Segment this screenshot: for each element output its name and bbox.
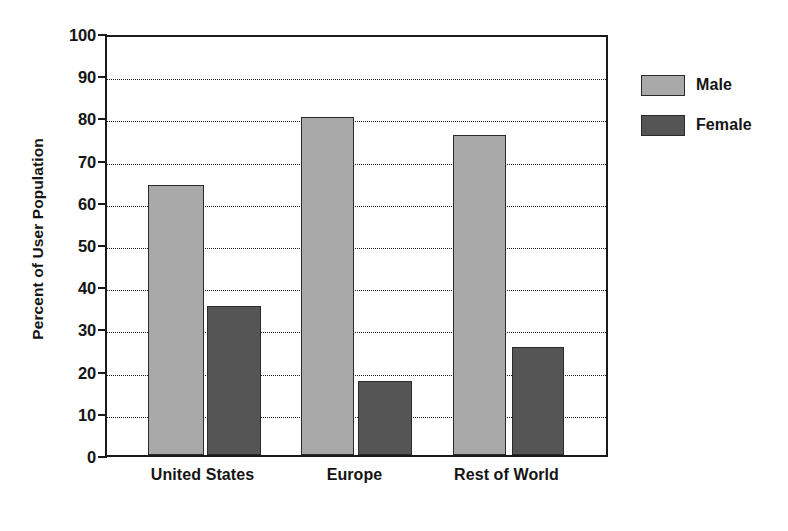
bar-female-united-states <box>207 306 261 455</box>
x-axis-tick-label: United States <box>151 466 255 484</box>
x-axis-tick-label: Rest of World <box>454 466 559 484</box>
legend-item-female: Female <box>641 110 781 140</box>
y-axis-tick-label: 10 <box>26 405 96 424</box>
legend-label: Female <box>696 116 752 134</box>
gridline <box>107 79 606 80</box>
legend-swatch-female <box>641 115 685 136</box>
y-axis-tick-label: 50 <box>26 237 96 256</box>
y-axis-tick-label: 70 <box>26 152 96 171</box>
legend-label: Male <box>696 76 732 94</box>
chart-legend: MaleFemale <box>641 70 781 150</box>
bar-female-rest-of-world <box>512 347 564 455</box>
legend-swatch-male <box>641 75 685 96</box>
bar-male-rest-of-world <box>453 135 506 455</box>
x-axis-tick-label: Europe <box>327 466 383 484</box>
plot-area <box>105 35 608 457</box>
y-axis-tick-label: 100 <box>26 26 96 45</box>
bar-female-europe <box>358 381 412 455</box>
gridline <box>107 121 606 122</box>
gridline <box>107 164 606 165</box>
bar-male-europe <box>301 117 354 455</box>
legend-item-male: Male <box>641 70 781 100</box>
y-axis-tick-label: 60 <box>26 194 96 213</box>
bar-male-united-states <box>148 185 204 455</box>
y-axis-tick-label: 0 <box>26 448 96 467</box>
y-axis-tick-label: 80 <box>26 110 96 129</box>
bar-chart-figure: Percent of User Population 0102030405060… <box>0 0 788 531</box>
y-axis-tick-label: 90 <box>26 68 96 87</box>
y-axis-tick-label: 20 <box>26 363 96 382</box>
y-axis-tick-label: 40 <box>26 279 96 298</box>
y-axis-tick-label: 30 <box>26 321 96 340</box>
